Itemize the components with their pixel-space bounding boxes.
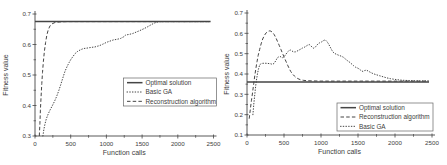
- x-tick-label: 0: [245, 139, 249, 146]
- x-tick-label: 500: [279, 139, 290, 146]
- legend-box: Optimal solutionReconstruction algorithm…: [337, 103, 433, 131]
- x-tick-label: 1000: [314, 139, 328, 146]
- chart-panel-1: 0.10.20.30.40.50.60.70500100015002000250…: [223, 9, 439, 154]
- x-tick-label: 2000: [171, 140, 185, 147]
- y-tick-label: 0.6: [234, 30, 243, 37]
- dual-convergence-figure: 0.30.40.50.60.705001000150020002500Funct…: [0, 0, 447, 165]
- x-tick-label: 1000: [100, 140, 114, 147]
- legend-label: Basic GA: [146, 88, 173, 95]
- y-tick-label: 0.4: [234, 70, 243, 77]
- legend-label: Reconstruction algorithm: [146, 98, 217, 106]
- x-tick-label: 2500: [207, 140, 221, 147]
- y-tick-label: 0.7: [234, 9, 243, 16]
- y-tick-label: 0.7: [22, 10, 31, 17]
- x-tick-label: 0: [33, 140, 37, 147]
- charts-canvas: 0.30.40.50.60.705001000150020002500Funct…: [0, 0, 447, 165]
- legend-label: Basic GA: [359, 123, 386, 130]
- y-tick-label: 0.1: [234, 131, 243, 138]
- x-tick-label: 1500: [351, 139, 365, 146]
- y-tick-label: 0.4: [22, 102, 31, 109]
- legend-box: Optimal solutionBasic GAReconstruction a…: [124, 78, 217, 106]
- legend-label: Optimal solution: [359, 104, 405, 112]
- legend-label: Optimal solution: [146, 79, 192, 87]
- legend-label: Reconstruction algorithm: [359, 113, 430, 121]
- y-tick-label: 0.3: [22, 132, 31, 139]
- y-tick-label: 0.5: [22, 71, 31, 78]
- x-tick-label: 1500: [135, 140, 149, 147]
- x-axis-title: Function calls: [103, 149, 146, 156]
- x-tick-label: 2000: [388, 139, 402, 146]
- y-tick-label: 0.6: [22, 41, 31, 48]
- x-axis-title: Function calls: [318, 148, 361, 155]
- y-axis-title: Fitness value: [223, 53, 230, 94]
- x-tick-label: 500: [66, 140, 77, 147]
- y-tick-label: 0.2: [234, 111, 243, 118]
- y-tick-label: 0.5: [234, 50, 243, 57]
- chart-panel-0: 0.30.40.50.60.705001000150020002500Funct…: [2, 10, 221, 155]
- x-tick-label: 2500: [425, 139, 439, 146]
- y-tick-label: 0.3: [234, 91, 243, 98]
- y-axis-title: Fitness value: [2, 54, 9, 95]
